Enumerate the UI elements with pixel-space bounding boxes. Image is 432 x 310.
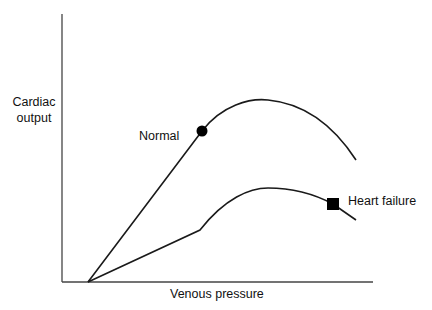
y-axis-label-line2: output	[8, 110, 60, 126]
normal-curve-label: Normal	[139, 128, 179, 144]
normal-curve	[88, 100, 356, 282]
y-axis-label-line1: Cardiac	[8, 94, 60, 110]
normal-marker-icon	[197, 126, 208, 137]
chart-canvas	[0, 0, 432, 310]
heart-failure-curve	[88, 188, 356, 282]
heart-failure-marker-icon	[327, 198, 339, 210]
y-axis-label: Cardiac output	[8, 94, 60, 126]
x-axis-label: Venous pressure	[170, 286, 264, 302]
heart-failure-curve-label: Heart failure	[348, 193, 416, 209]
